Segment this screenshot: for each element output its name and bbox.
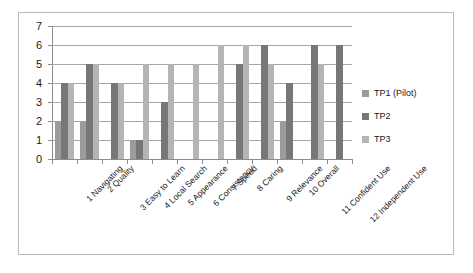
- bar: [336, 45, 342, 159]
- legend-label: TP1 (Pilot): [374, 89, 417, 98]
- bar-group: [327, 26, 352, 159]
- bar-group: [252, 26, 277, 159]
- bar-group: [152, 26, 177, 159]
- legend-item[interactable]: TP2: [362, 111, 448, 121]
- bar: [286, 83, 292, 159]
- x-axis-category-label: 8 Caring: [255, 164, 284, 193]
- chart-figure: 01234567 1 Navigating2 Quality3 Easy to …: [0, 0, 473, 273]
- y-axis-tick-label: 4: [36, 78, 42, 89]
- bar: [93, 64, 99, 159]
- legend-swatch-icon: [362, 113, 369, 120]
- bar-group: [202, 26, 227, 159]
- legend-item[interactable]: TP3: [362, 134, 448, 144]
- plot-area: [52, 26, 352, 159]
- bar-group: [302, 26, 327, 159]
- y-axis-tick-label: 1: [36, 135, 42, 146]
- bar: [168, 64, 174, 159]
- bar: [143, 64, 149, 159]
- legend-label: TP2: [374, 112, 391, 121]
- bar: [318, 64, 324, 159]
- bar-group: [127, 26, 152, 159]
- y-axis-tick-labels: 01234567: [22, 26, 46, 159]
- y-axis-tick-label: 5: [36, 59, 42, 70]
- y-axis-tick-label: 7: [36, 21, 42, 32]
- legend-label: TP3: [374, 135, 391, 144]
- bar: [218, 45, 224, 159]
- legend-item[interactable]: TP1 (Pilot): [362, 88, 448, 98]
- bar: [268, 64, 274, 159]
- x-axis-category-labels: 1 Navigating2 Quality3 Easy to Learn4 Lo…: [52, 164, 353, 244]
- bar-group: [77, 26, 102, 159]
- bar: [68, 83, 74, 159]
- bar-group: [52, 26, 77, 159]
- bar: [118, 83, 124, 159]
- bar-group: [177, 26, 202, 159]
- legend-swatch-icon: [362, 90, 369, 97]
- y-axis-tick-label: 2: [36, 116, 42, 127]
- legend-swatch-icon: [362, 136, 369, 143]
- y-axis-tick-label: 0: [36, 154, 42, 165]
- bars-layer: [52, 26, 352, 159]
- bar: [193, 64, 199, 159]
- y-axis-tick-label: 6: [36, 40, 42, 51]
- y-axis-tick-label: 3: [36, 97, 42, 108]
- bar: [243, 45, 249, 159]
- bar-group: [277, 26, 302, 159]
- bar-group: [102, 26, 127, 159]
- bar-group: [227, 26, 252, 159]
- chart-legend: TP1 (Pilot)TP2TP3: [362, 88, 448, 157]
